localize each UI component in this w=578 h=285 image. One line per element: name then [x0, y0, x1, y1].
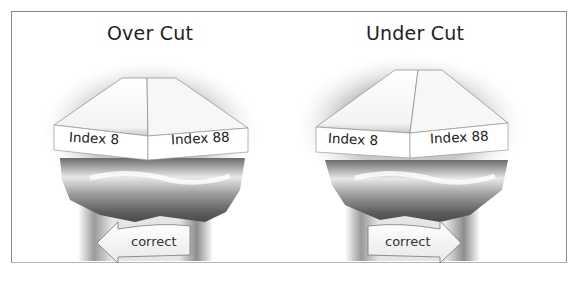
panel-title: Over Cut [5, 22, 295, 44]
index-8-label: Index 8 [328, 130, 379, 149]
index-88-label: Index 88 [430, 127, 489, 146]
over-cut-panel: Over Cut Index 8 Index 88 correct [5, 0, 295, 285]
correct-arrow-label: correct [385, 234, 431, 249]
correct-arrow-label: correct [131, 234, 177, 249]
under-cut-panel: Under Cut Index 8 Index 88 correct [270, 0, 560, 285]
index-88-label: Index 88 [171, 128, 230, 147]
panel-title: Under Cut [270, 22, 560, 44]
index-8-label: Index 8 [69, 129, 120, 148]
